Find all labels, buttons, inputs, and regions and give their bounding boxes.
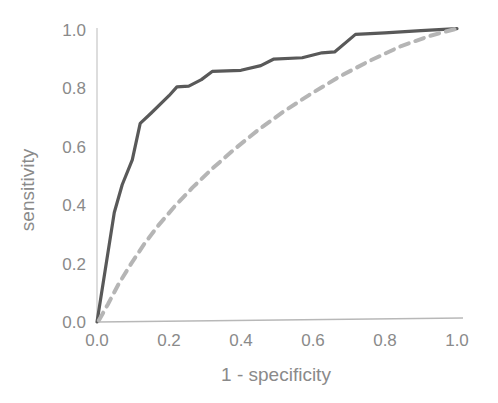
x-tick-label: 0.8 — [373, 331, 397, 350]
y-tick-label: 1.0 — [62, 21, 86, 40]
x-tick-label: 0.0 — [85, 331, 109, 350]
x-tick-label: 0.6 — [301, 331, 325, 350]
x-axis-title: 1 - specificity — [221, 364, 331, 385]
chart-canvas: 0.00.20.40.60.81.0 0.00.20.40.60.81.0 1 … — [0, 0, 498, 403]
y-axis-title: sensitivity — [17, 148, 38, 231]
x-tick-label: 1.0 — [445, 331, 469, 350]
y-tick-label: 0.8 — [62, 79, 86, 98]
y-tick-label: 0.4 — [62, 196, 86, 215]
x-tick-label: 0.2 — [157, 331, 181, 350]
y-tick-label: 0.6 — [62, 138, 86, 157]
y-tick-label: 0.0 — [62, 313, 86, 332]
y-tick-label: 0.2 — [62, 255, 86, 274]
roc-chart-figure: 0.00.20.40.60.81.0 0.00.20.40.60.81.0 1 … — [0, 0, 498, 403]
x-tick-label: 0.4 — [229, 331, 253, 350]
